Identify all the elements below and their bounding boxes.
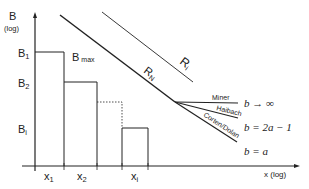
x-axis-label: x (log)	[264, 170, 287, 179]
y-tick-b2: B2	[18, 77, 30, 91]
bmax-label: Bmax	[72, 51, 95, 63]
miner-label: Miner	[212, 94, 230, 101]
y-axis-sublabel: (log)	[4, 24, 20, 33]
miner-formula: b → ∞	[244, 97, 274, 109]
miner-line	[175, 102, 238, 103]
bar-2	[64, 82, 97, 166]
x-tick-xi: xi	[131, 170, 139, 184]
fatigue-spectrum-diagram: B (log) B1 B2 Bi Bmax x1 x2 xi x (log) R…	[0, 0, 309, 189]
x-tick-x2: x2	[77, 170, 87, 184]
y-axis-arrow-icon	[33, 12, 37, 18]
x-tick-x1: x1	[44, 170, 54, 184]
x-axis-arrow-icon	[294, 164, 300, 168]
y-tick-b1: B1	[18, 47, 30, 61]
haibach-formula: b = 2a − 1	[244, 121, 292, 133]
y-axis-label: B	[9, 10, 16, 22]
ri-label: Ri	[177, 54, 194, 72]
corten-dolan-formula: b = a	[244, 145, 268, 157]
rn-label: RN	[141, 64, 159, 82]
y-tick-bi: Bi	[18, 123, 27, 137]
bar-1	[35, 52, 64, 166]
bar-i	[122, 128, 148, 166]
bar-dotted	[97, 102, 122, 128]
